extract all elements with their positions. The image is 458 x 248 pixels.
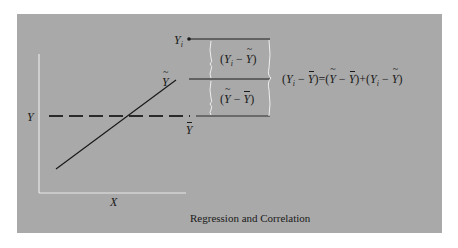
left-brace-lower — [210, 81, 212, 115]
x-axis-label: X — [110, 196, 117, 208]
figure-caption: Regression and Correlation — [190, 212, 310, 224]
left-brace-upper — [210, 41, 212, 78]
right-brace — [268, 40, 271, 116]
predicted-label: Y — [162, 76, 169, 88]
regression-diagram — [0, 0, 458, 248]
upper-deviation-term: (Yi − Y) — [220, 53, 256, 68]
lower-deviation-term: (Y − Y) — [220, 93, 254, 105]
regression-line — [56, 80, 176, 169]
decomposition-equation: (Yi − Y)=(Y − Y)+(Yi − Y) — [282, 73, 403, 88]
observed-label: Yi — [174, 34, 183, 49]
y-axis-label: Y — [27, 111, 34, 123]
mean-label: Y — [186, 124, 193, 136]
